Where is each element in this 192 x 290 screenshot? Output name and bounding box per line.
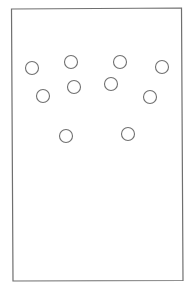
- circle-10: [122, 128, 135, 141]
- circle-9: [60, 130, 73, 143]
- circle-group: [26, 56, 169, 143]
- circle-7: [105, 78, 118, 91]
- circle-5: [37, 90, 50, 103]
- circle-1: [26, 62, 39, 75]
- circle-4: [156, 61, 169, 74]
- circle-2: [65, 56, 78, 69]
- circle-3: [114, 56, 127, 69]
- circle-6: [68, 81, 81, 94]
- circle-8: [144, 91, 157, 104]
- diagram-canvas: [0, 0, 192, 290]
- frame-rectangle: [12, 8, 184, 281]
